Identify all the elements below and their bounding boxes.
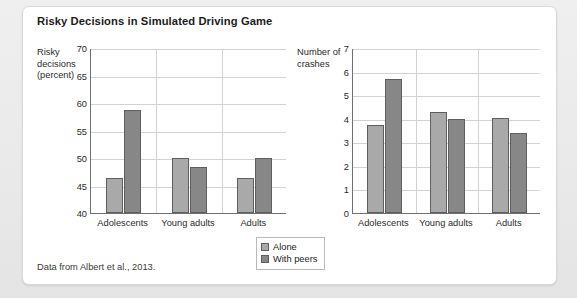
bar-alone-young-adults [172,158,189,213]
gridline [353,73,540,74]
y-tick-label: 6 [327,68,349,78]
y-tick-label: 45 [65,182,87,192]
bar-alone-adolescents [106,178,123,213]
x-category-label: Adolescents [358,218,409,228]
legend-label: Alone [273,242,297,252]
x-category-label: Young adults [161,218,214,228]
y-tick-label: 65 [65,72,87,82]
figure-page: Risky Decisions in Simulated Driving Gam… [0,0,577,298]
bar-alone-adults [237,178,254,213]
y-tick-label: 2 [327,162,349,172]
bar-alone-young-adults [430,112,447,213]
gridline [91,132,286,133]
x-category-label: Adolescents [97,218,148,228]
figure-title: Risky Decisions in Simulated Driving Gam… [37,15,272,27]
gridline [353,96,540,97]
x-category-label: Young adults [419,218,472,228]
legend-item: With peers [261,253,317,265]
gridline [91,77,286,78]
gridline [91,104,286,105]
y-tick-label: 3 [327,138,349,148]
group-separator-gridline [156,49,157,213]
bar-with-peers-adolescents [124,110,141,213]
plot-area-left [90,49,286,214]
chart-panel-left: Risky decisions (percent) 40455055606570… [35,41,295,231]
legend-swatch-icon [261,243,269,251]
bar-with-peers-adolescents [385,79,402,213]
y-tick-label: 5 [327,91,349,101]
y-tick-label: 1 [327,185,349,195]
legend-label: With peers [273,254,317,264]
plot-area-right [352,49,540,214]
y-tick-label: 60 [65,99,87,109]
bar-with-peers-adults [255,158,272,213]
y-tick-label: 40 [65,209,87,219]
bar-with-peers-young-adults [448,119,465,213]
legend-swatch-icon [261,255,269,263]
source-note: Data from Albert et al., 2013. [37,262,155,272]
y-tick-label: 55 [65,127,87,137]
y-tick-label: 4 [327,115,349,125]
legend-item: Alone [261,241,317,253]
gridline [91,49,286,50]
x-category-label: Adults [240,218,266,228]
y-tick-label: 70 [65,44,87,54]
y-tick-label: 50 [65,154,87,164]
bar-with-peers-adults [510,133,527,213]
group-separator-gridline [478,49,479,213]
figure-card: Risky Decisions in Simulated Driving Gam… [22,6,557,285]
bar-alone-adults [492,118,509,213]
chart-panel-right: Number of crashes 01234567AdolescentsYou… [295,41,547,231]
x-category-label: Adults [496,218,522,228]
gridline [353,120,540,121]
y-tick-label: 7 [327,44,349,54]
bar-with-peers-young-adults [190,167,207,213]
gridline [353,49,540,50]
group-separator-gridline [416,49,417,213]
group-separator-gridline [222,49,223,213]
y-tick-label: 0 [327,209,349,219]
bar-alone-adolescents [367,125,384,213]
chart-legend: AloneWith peers [256,237,325,270]
